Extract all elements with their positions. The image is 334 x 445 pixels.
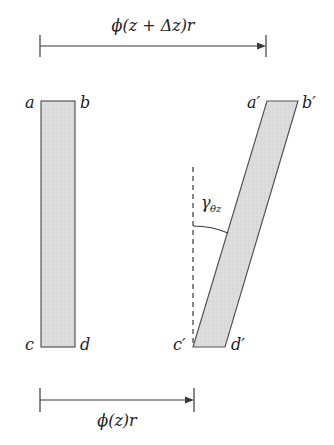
deformed-element	[193, 101, 298, 347]
corner-label-b-prime: b′	[302, 93, 316, 112]
arrowhead-icon	[257, 43, 266, 50]
corner-label-a: a	[25, 93, 35, 112]
original-element	[41, 101, 75, 347]
shear-angle-subscript: θz	[210, 203, 222, 214]
top-dimension-label: ϕ(z + Δz)r	[111, 16, 195, 35]
shear-strain-diagram: ϕ(z + Δz)r a b c d a′ b′ c′ d′ γ θz ϕ(z)…	[0, 0, 334, 445]
corner-label-d: d	[80, 335, 90, 354]
arrowhead-icon	[185, 397, 194, 404]
corner-label-c: c	[25, 335, 34, 354]
corner-label-d-prime: d′	[231, 335, 245, 354]
top-dimension-arrow	[40, 35, 266, 57]
corner-label-a-prime: a′	[247, 93, 261, 112]
corner-label-b: b	[80, 93, 90, 112]
bottom-dimension-label: ϕ(z)r	[97, 411, 138, 430]
bottom-dimension-arrow	[40, 388, 194, 412]
shear-angle-arc	[193, 226, 228, 233]
corner-label-c-prime: c′	[173, 335, 186, 354]
